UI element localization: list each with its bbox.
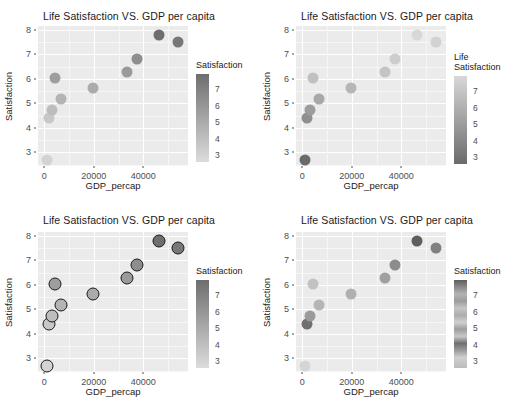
scatter-point: [345, 288, 356, 299]
scatter-point: [300, 154, 311, 165]
legend-title: Satisfaction: [196, 60, 258, 70]
scatter-point: [307, 279, 318, 290]
legend: LifeSatisfaction 76543: [454, 52, 516, 164]
legend-colorbar: [454, 76, 467, 164]
y-tick-mark: [34, 127, 36, 128]
scatter-point: [42, 154, 53, 165]
x-axis-label: GDP_percap: [38, 386, 188, 397]
y-axis-ticks: 345678: [14, 26, 36, 166]
y-tick-label: 5: [26, 98, 31, 108]
x-axis-label: GDP_percap: [296, 180, 446, 191]
y-tick-label: 6: [26, 74, 31, 84]
y-tick-mark: [34, 358, 36, 359]
legend-body: 76543: [196, 280, 258, 368]
x-tick-mark: [351, 166, 352, 168]
scatter-point: [132, 54, 143, 65]
y-tick-mark: [292, 309, 294, 310]
y-tick-mark: [292, 54, 294, 55]
legend: Satisfaction 76543: [196, 60, 258, 162]
plot-area: [296, 232, 446, 372]
data-points: [38, 232, 188, 372]
scatter-point: [87, 82, 98, 93]
x-tick-mark: [44, 166, 45, 168]
legend-ticks: 76543: [473, 76, 503, 164]
y-axis-ticks: 345678: [272, 232, 294, 372]
legend: Satisfaction 76543: [196, 266, 258, 368]
y-tick-label: 3: [26, 353, 31, 363]
legend-title-line: Satisfaction: [454, 62, 516, 72]
y-tick-mark: [292, 333, 294, 334]
legend-title: Satisfaction: [196, 266, 258, 276]
scatter-point: [431, 243, 442, 254]
y-tick-mark: [34, 284, 36, 285]
legend-tick-label: 7: [473, 86, 478, 96]
scatter-point: [305, 310, 316, 321]
y-tick-label: 3: [26, 147, 31, 157]
scatter-point: [55, 298, 68, 311]
scatter-point: [412, 235, 423, 246]
legend-tick-label: 6: [473, 103, 478, 113]
y-tick-label: 4: [26, 329, 31, 339]
legend-body: 76543: [454, 76, 516, 164]
y-tick-mark: [34, 309, 36, 310]
y-tick-label: 6: [284, 74, 289, 84]
legend-ticks: 76543: [215, 74, 245, 162]
scatter-point: [86, 287, 99, 300]
legend-title-line: Satisfaction: [196, 266, 258, 276]
y-axis-ticks: 345678: [272, 26, 294, 166]
y-tick-label: 8: [26, 231, 31, 241]
legend-ticks: 76543: [215, 280, 245, 368]
y-tick-mark: [34, 235, 36, 236]
scatter-point: [47, 104, 58, 115]
y-tick-mark: [34, 152, 36, 153]
y-tick-mark: [292, 260, 294, 261]
scatter-point: [412, 29, 423, 40]
data-points: [296, 26, 446, 166]
x-tick-mark: [44, 372, 45, 374]
y-tick-label: 3: [284, 353, 289, 363]
panel-title: Life Satisfaction VS. GDP per capita: [258, 10, 516, 22]
scatter-point: [380, 66, 391, 77]
legend-body: 76543: [454, 280, 516, 368]
x-axis-label: GDP_percap: [38, 180, 188, 191]
scatter-point: [173, 37, 184, 48]
plot-area: [38, 26, 188, 166]
y-tick-label: 4: [284, 329, 289, 339]
y-tick-mark: [292, 235, 294, 236]
legend-tick-label: 7: [473, 290, 478, 300]
legend-tick-label: 4: [215, 134, 220, 144]
legend-tick-label: 6: [473, 307, 478, 317]
y-axis-ticks: 345678: [14, 232, 36, 372]
scatter-point: [172, 242, 185, 255]
x-tick-mark: [143, 372, 144, 374]
y-tick-mark: [292, 103, 294, 104]
legend-tick-label: 7: [215, 84, 220, 94]
x-axis-label: GDP_percap: [296, 386, 446, 397]
y-tick-mark: [292, 29, 294, 30]
y-tick-label: 4: [26, 123, 31, 133]
scatter-point: [345, 82, 356, 93]
legend-ticks: 76543: [473, 280, 503, 368]
x-tick-mark: [302, 166, 303, 168]
scatter-point: [56, 93, 67, 104]
y-tick-label: 5: [284, 304, 289, 314]
panel-top-right: Life Satisfaction VS. GDP per capita Sat…: [258, 0, 516, 206]
legend-title-line: Satisfaction: [454, 266, 516, 276]
legend-tick-label: 3: [215, 150, 220, 160]
scatter-point: [305, 104, 316, 115]
y-tick-mark: [292, 358, 294, 359]
legend-title: LifeSatisfaction: [454, 52, 516, 72]
legend-tick-label: 3: [473, 356, 478, 366]
y-tick-label: 6: [284, 280, 289, 290]
panel-bottom-left: Life Satisfaction VS. GDP per capita Sat…: [0, 206, 258, 412]
y-tick-mark: [34, 29, 36, 30]
y-tick-label: 8: [284, 231, 289, 241]
scatter-point: [46, 309, 59, 322]
panel-title: Life Satisfaction VS. GDP per capita: [0, 214, 258, 226]
y-tick-label: 7: [284, 49, 289, 59]
legend-colorbar: [196, 280, 209, 368]
data-points: [38, 26, 188, 166]
y-tick-label: 4: [284, 123, 289, 133]
y-tick-label: 5: [26, 304, 31, 314]
figure-panel-grid: Life Satisfaction VS. GDP per capita Sat…: [0, 0, 516, 413]
